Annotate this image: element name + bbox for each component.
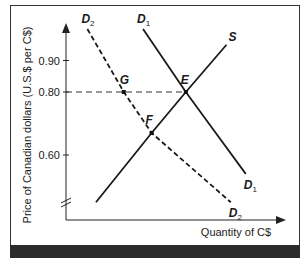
y-tick-label: 0.80 (39, 86, 60, 98)
y-axis-title: Price of Canadian dollars (U.S.$ per C$) (21, 27, 33, 224)
chart: 0.900.800.60 GEF D2D2D1D1S Quantity of C… (0, 0, 308, 266)
point-g-marker (122, 90, 126, 94)
point-e-label: E (181, 73, 190, 87)
y-tick-label: 0.60 (39, 149, 60, 161)
y-tick-label: 0.90 (39, 55, 60, 67)
point-e-marker (184, 90, 188, 94)
curve-label-s: S (229, 30, 237, 44)
x-axis-title: Quantity of C$ (201, 226, 271, 238)
point-f-marker (150, 131, 154, 135)
point-g-label: G (120, 73, 129, 87)
bottom-bar (10, 245, 300, 258)
point-f-label: F (146, 113, 154, 127)
